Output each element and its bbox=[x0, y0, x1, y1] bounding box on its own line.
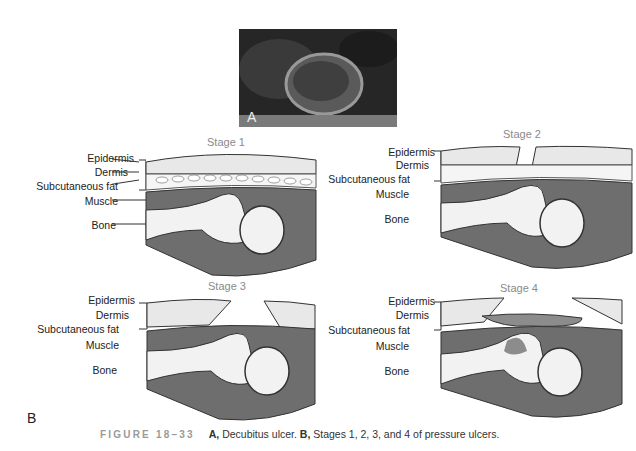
ulcer-image bbox=[239, 29, 397, 127]
stage-3-title: Stage 3 bbox=[208, 280, 246, 292]
label-bone: Bone bbox=[384, 365, 409, 377]
stage-1-illustration bbox=[112, 150, 317, 280]
label-dermis: Dermis bbox=[396, 159, 429, 171]
label-epidermis: Epidermis bbox=[88, 294, 135, 306]
decubitus-ulcer-photo: A bbox=[239, 29, 397, 127]
caption-b-text: Stages 1, 2, 3, and 4 of pressure ulcers… bbox=[310, 428, 499, 440]
label-epidermis: Epidermis bbox=[388, 146, 435, 158]
caption-b-label: B, bbox=[300, 428, 311, 440]
photo-label-a: A bbox=[247, 109, 256, 125]
label-subcutaneous-fat: Subcutaneous fat bbox=[328, 173, 410, 185]
stage-4-illustration bbox=[432, 296, 636, 426]
caption-a-text: Decubitus ulcer. bbox=[219, 428, 300, 440]
label-subcutaneous-fat: Subcutaneous fat bbox=[328, 324, 410, 336]
figure-number: FIGURE 18–33 bbox=[100, 429, 195, 440]
stage-2-title: Stage 2 bbox=[503, 128, 541, 140]
stage-2-illustration bbox=[432, 145, 636, 275]
label-subcutaneous-fat: Subcutaneous fat bbox=[36, 180, 118, 192]
label-bone: Bone bbox=[384, 213, 409, 225]
label-dermis: Dermis bbox=[96, 309, 129, 321]
stage-4-title: Stage 4 bbox=[500, 282, 538, 294]
label-muscle: Muscle bbox=[86, 339, 119, 351]
figure-caption: FIGURE 18–33A, Decubitus ulcer. B, Stage… bbox=[100, 428, 499, 440]
caption-a-label: A, bbox=[209, 428, 220, 440]
label-bone: Bone bbox=[92, 364, 117, 376]
stage-1-title: Stage 1 bbox=[207, 136, 245, 148]
panel-b-label: B bbox=[27, 410, 36, 426]
stage-3-illustration bbox=[139, 299, 319, 424]
label-muscle: Muscle bbox=[376, 340, 409, 352]
label-dermis: Dermis bbox=[396, 309, 429, 321]
label-epidermis: Epidermis bbox=[388, 295, 435, 307]
label-muscle: Muscle bbox=[376, 188, 409, 200]
label-subcutaneous-fat: Subcutaneous fat bbox=[37, 323, 119, 335]
